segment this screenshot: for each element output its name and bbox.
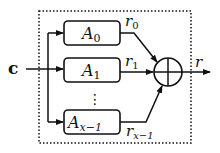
block-a1: A1 — [64, 58, 120, 82]
block-a0: A0 — [64, 21, 120, 45]
ellipsis: ⋮ — [88, 91, 102, 107]
input-label: c — [8, 58, 18, 78]
diagram-canvas: c A0 A1 ⋮ Ax−1 r0 r1 rx−1 r — [0, 0, 220, 153]
label-r0: r0 — [125, 12, 139, 31]
label-r1: r1 — [125, 52, 139, 71]
block-ax-1: Ax−1 — [64, 110, 120, 134]
output-label: r — [195, 53, 203, 71]
label-rx-1: rx−1 — [126, 122, 154, 141]
oplus-combiner-icon — [154, 58, 182, 86]
output-line-rx-1 — [120, 86, 162, 122]
